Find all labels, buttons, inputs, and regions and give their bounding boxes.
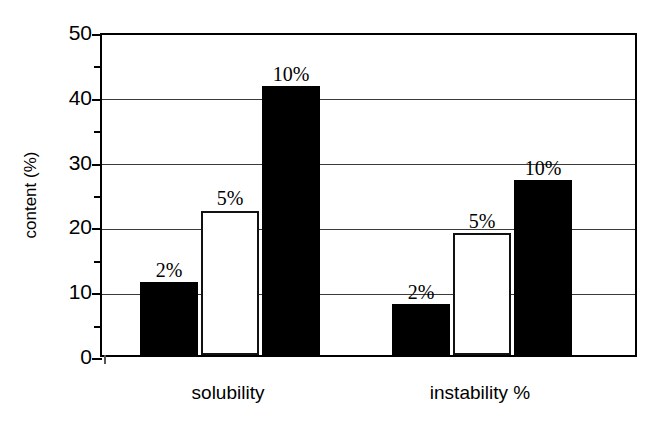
bar-value-label: 2% xyxy=(156,260,183,280)
x-axis-category-label: instability % xyxy=(430,383,530,402)
x-axis-category-label: solubility xyxy=(192,383,265,402)
bar-value-label: 5% xyxy=(469,211,496,231)
y-axis-tick-label: 30 xyxy=(48,152,92,173)
y-axis-tick-label: 40 xyxy=(48,87,92,108)
bar xyxy=(453,233,511,355)
y-axis-tick-major xyxy=(92,164,102,166)
bar xyxy=(262,86,320,355)
gridline xyxy=(102,99,635,100)
y-axis-tick-major xyxy=(92,228,102,230)
y-axis-tick-major xyxy=(92,99,102,101)
y-axis-tick-label: 0 xyxy=(48,346,92,367)
y-axis-tick-label: 50 xyxy=(48,22,92,43)
y-axis-tick-minor xyxy=(94,196,102,198)
bar xyxy=(140,282,198,355)
bar-value-label: 10% xyxy=(273,64,310,84)
x-axis-tick xyxy=(104,355,106,364)
bar xyxy=(201,211,259,356)
y-axis-tick-major xyxy=(92,34,102,36)
y-axis-tick-labels: 01020304050 xyxy=(44,0,92,424)
y-axis-tick-minor xyxy=(94,131,102,133)
y-axis-tick-label: 10 xyxy=(48,281,92,302)
y-axis-tick-major xyxy=(92,358,102,360)
bar xyxy=(514,180,572,355)
y-axis-tick-minor xyxy=(94,66,102,68)
y-axis-tick-minor xyxy=(94,261,102,263)
plot-inner: 2%5%10%2%5%10% xyxy=(102,35,635,355)
bar-value-label: 2% xyxy=(408,282,435,302)
bar-value-label: 10% xyxy=(525,158,562,178)
y-axis-tick-label: 20 xyxy=(48,216,92,237)
bar xyxy=(392,304,450,355)
bar-value-label: 5% xyxy=(217,188,244,208)
y-axis-title: content (%) xyxy=(14,33,48,357)
plot-area: 2%5%10%2%5%10% xyxy=(100,33,637,357)
y-axis-tick-minor xyxy=(94,326,102,328)
y-axis-tick-major xyxy=(92,293,102,295)
bar-chart-figure: content (%) 01020304050 2%5%10%2%5%10% s… xyxy=(0,0,660,424)
